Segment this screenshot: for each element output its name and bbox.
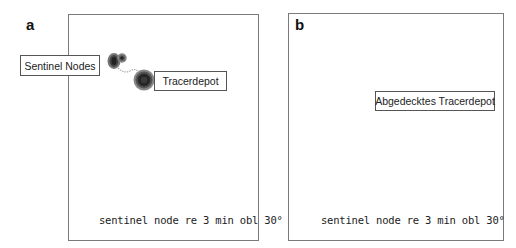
panel-b-caption: sentinel node re 3 min obl 30° bbox=[321, 214, 505, 226]
covered-tracer-depot-label: Abgedecktes Tracerdepot bbox=[375, 91, 495, 111]
panel-b-letter: b bbox=[295, 16, 304, 33]
panel-a-tracer-depot-hotspot bbox=[135, 71, 154, 90]
panel-a-caption: sentinel node re 3 min obl 30° bbox=[99, 214, 283, 226]
sentinel-nodes-label: Sentinel Nodes bbox=[20, 55, 100, 76]
panel-b-frame bbox=[288, 13, 504, 241]
panel-a-sentinel-node-hotspots bbox=[109, 54, 127, 68]
tracer-depot-label: Tracerdepot bbox=[154, 71, 227, 91]
